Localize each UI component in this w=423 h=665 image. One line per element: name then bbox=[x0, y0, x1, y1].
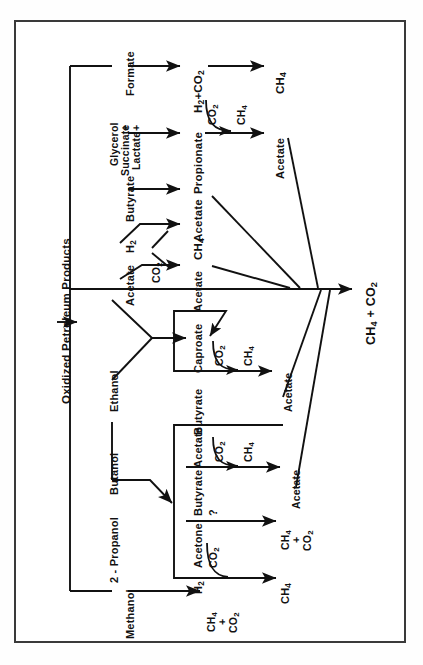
intermediate-h2-co2: H2+CO2 bbox=[192, 70, 206, 113]
substrate-ethanol: Ethanol bbox=[108, 370, 120, 412]
intermediate-ch4-1: CH4 bbox=[192, 238, 206, 260]
cofactor-co2-butyrate: CO2 bbox=[213, 441, 227, 462]
intermediate-acetate-1: Acetate bbox=[192, 199, 204, 242]
acetate-r5-to-bus bbox=[212, 266, 290, 288]
cofactor-co2-caproate: CO2 bbox=[213, 345, 227, 366]
substrate-butanol: Butanol bbox=[108, 453, 120, 495]
substrate-h2: H2 bbox=[124, 240, 138, 253]
intermediate-acetate-3: Acetate bbox=[192, 427, 204, 468]
substrate-2-propanol: 2 - Propanol bbox=[108, 517, 120, 583]
product-ch4-top: CH4 bbox=[274, 72, 288, 94]
product-acetate-caproate: Acetate bbox=[282, 373, 294, 412]
figure-page: Oxidized Petroleum Products Formate Glyc… bbox=[0, 0, 423, 665]
question-mark: ? bbox=[207, 509, 219, 516]
acetate-r3-to-bus bbox=[212, 196, 300, 288]
acetate-butyrate-to-bus bbox=[296, 290, 330, 487]
substrate-butyrate-text: Butyrate bbox=[124, 176, 136, 222]
acetate-top-to-bus bbox=[288, 138, 318, 288]
cofactor-ch4-propionate: CH4 bbox=[235, 105, 249, 125]
product-acetate-top: Acetate bbox=[274, 138, 286, 179]
product-acetate-butyrate: Acetate bbox=[290, 470, 302, 509]
butanol-branch-arrow bbox=[112, 480, 172, 503]
substrate-butyrate: Butyrate bbox=[124, 176, 136, 222]
substrate-formate: Formate bbox=[124, 51, 136, 96]
substrate-acetate: Acetate bbox=[124, 265, 136, 306]
cofactor-co2-h2: CO2 bbox=[150, 262, 164, 283]
product-co2-methanol: CO2 bbox=[227, 612, 241, 633]
lower-products-bracket bbox=[174, 425, 186, 578]
cofactor-co2-h2-low: CO2 bbox=[207, 547, 221, 568]
intermediate-caproate: Caproate bbox=[192, 324, 204, 373]
cofactor-ch4-butyrate: CH4 bbox=[242, 442, 256, 462]
intermediate-butyrate-2: Butyrate bbox=[192, 470, 204, 516]
input-label: Oxidized Petroleum Products bbox=[60, 238, 72, 404]
substrate-methanol: Methanol bbox=[124, 589, 136, 639]
final-output-label: CH4 + CO2 bbox=[364, 282, 379, 345]
product-ch4-h2low: CH4 bbox=[279, 583, 293, 604]
intermediate-acetone: Acetone bbox=[192, 523, 204, 568]
product-co2-acetone: CO2 bbox=[301, 530, 315, 551]
plus-sign-2: + bbox=[130, 125, 142, 131]
intermediate-h2-low: H2 bbox=[192, 581, 206, 594]
substrate-lactate: Lactate bbox=[130, 132, 142, 170]
intermediate-acetate-2: Acetate bbox=[192, 271, 204, 312]
cofactor-ch4-caproate: CH4 bbox=[242, 346, 256, 366]
intermediate-propionate: Propionate bbox=[192, 132, 204, 194]
cofactor-co2-propionate: CO2 bbox=[206, 104, 220, 125]
butyrate-caproate-bracket bbox=[174, 311, 186, 371]
